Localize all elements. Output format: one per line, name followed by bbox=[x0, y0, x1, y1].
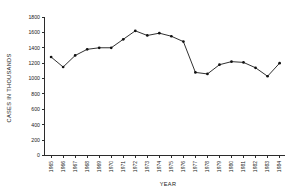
y-tick-label: 0 bbox=[37, 152, 40, 158]
data-point bbox=[206, 73, 209, 76]
x-tick-label: 1965 bbox=[48, 161, 54, 172]
data-point bbox=[122, 38, 125, 41]
data-point bbox=[86, 48, 89, 51]
y-tick-label: 400 bbox=[31, 122, 40, 128]
data-point bbox=[254, 66, 257, 69]
data-point bbox=[194, 71, 197, 74]
x-tick-label: 1968 bbox=[84, 161, 90, 172]
y-tick-label: 1200 bbox=[28, 60, 40, 66]
x-tick-label: 1976 bbox=[180, 161, 186, 172]
data-point bbox=[110, 46, 113, 49]
y-tick-label: 800 bbox=[31, 91, 40, 97]
data-point bbox=[134, 30, 137, 33]
x-tick-label: 1969 bbox=[96, 161, 102, 172]
x-tick-label: 1984 bbox=[276, 161, 282, 172]
chart-svg: 020040060080010001200140016001800 CASES … bbox=[0, 0, 294, 193]
x-tick-label: 1967 bbox=[72, 161, 78, 172]
line-chart: 020040060080010001200140016001800 CASES … bbox=[0, 0, 294, 193]
data-point bbox=[74, 54, 77, 57]
data-point bbox=[170, 35, 173, 38]
x-tick-label: 1981 bbox=[240, 161, 246, 172]
data-point bbox=[146, 34, 149, 37]
x-tick-label: 1966 bbox=[60, 161, 66, 172]
chart-page: 020040060080010001200140016001800 CASES … bbox=[0, 0, 294, 193]
x-tick-label: 1973 bbox=[144, 161, 150, 172]
y-tick-label: 1000 bbox=[28, 75, 40, 81]
data-point bbox=[218, 63, 221, 66]
x-tick-label: 1974 bbox=[156, 161, 162, 172]
x-tick-label: 1970 bbox=[108, 161, 114, 172]
data-point bbox=[182, 40, 185, 43]
x-tick-label: 1977 bbox=[192, 161, 198, 172]
x-tick-label: 1972 bbox=[132, 161, 138, 172]
y-axis-title: CASES IN THOUSANDS bbox=[6, 54, 12, 123]
x-tick-label: 1978 bbox=[204, 161, 210, 172]
y-tick-label: 600 bbox=[31, 106, 40, 112]
data-point bbox=[158, 32, 161, 35]
data-point bbox=[98, 46, 101, 49]
x-tick-label: 1979 bbox=[216, 161, 222, 172]
y-tick-label: 1400 bbox=[28, 45, 40, 51]
y-tick-label: 200 bbox=[31, 137, 40, 143]
data-point bbox=[230, 60, 233, 63]
data-point bbox=[50, 56, 53, 59]
data-point bbox=[278, 62, 281, 65]
data-point bbox=[62, 66, 65, 69]
x-tick-label: 1975 bbox=[168, 161, 174, 172]
data-point bbox=[242, 61, 245, 64]
y-tick-label: 1800 bbox=[28, 14, 40, 20]
x-axis-title: YEAR bbox=[160, 181, 177, 187]
x-tick-label: 1983 bbox=[264, 161, 270, 172]
y-tick-label: 1600 bbox=[28, 29, 40, 35]
data-point bbox=[266, 75, 269, 78]
x-tick-label: 1980 bbox=[228, 161, 234, 172]
x-tick-label: 1971 bbox=[120, 161, 126, 172]
x-tick-label: 1982 bbox=[252, 161, 258, 172]
